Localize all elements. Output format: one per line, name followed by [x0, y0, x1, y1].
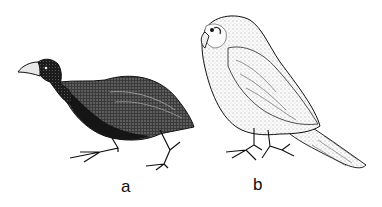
bird-b	[201, 16, 366, 168]
panel-label-a: a	[121, 178, 130, 195]
bird-a	[18, 59, 194, 170]
illustration	[0, 0, 382, 207]
panel-label-b: b	[253, 176, 262, 193]
